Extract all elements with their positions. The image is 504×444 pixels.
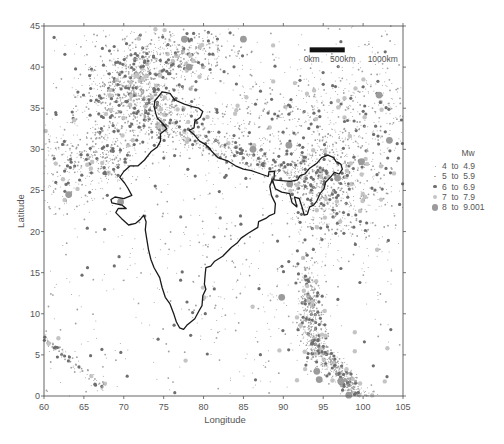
earthquake-point	[133, 91, 135, 93]
earthquake-point	[112, 83, 113, 84]
earthquake-point	[312, 219, 314, 221]
earthquake-point	[332, 190, 334, 192]
earthquake-point	[113, 88, 114, 89]
earthquake-point	[312, 265, 313, 266]
earthquake-point	[260, 62, 261, 63]
earthquake-point	[174, 122, 175, 123]
earthquake-point	[77, 125, 78, 126]
earthquake-point	[169, 63, 170, 64]
earthquake-point	[259, 138, 260, 139]
earthquake-point	[171, 54, 172, 55]
earthquake-point	[152, 111, 153, 112]
earthquake-point	[231, 159, 232, 160]
earthquake-point	[379, 238, 380, 239]
earthquake-point	[300, 319, 302, 321]
earthquake-point	[372, 138, 373, 139]
earthquake-point	[148, 96, 149, 97]
earthquake-point	[298, 118, 300, 120]
x-tick-label: 90	[278, 402, 288, 412]
earthquake-point	[103, 125, 105, 127]
earthquake-point	[106, 46, 107, 47]
earthquake-point	[315, 252, 316, 253]
earthquake-point	[101, 166, 103, 168]
earthquake-point	[276, 118, 278, 120]
earthquake-point	[143, 249, 144, 250]
earthquake-point	[228, 168, 230, 170]
earthquake-point	[385, 375, 388, 378]
earthquake-point	[395, 117, 396, 118]
earthquake-point	[86, 136, 87, 137]
earthquake-point	[259, 116, 260, 117]
earthquake-point	[326, 209, 327, 210]
earthquake-point	[142, 93, 144, 95]
earthquake-point	[89, 166, 93, 170]
earthquake-point	[105, 135, 106, 136]
earthquake-point	[365, 236, 367, 238]
earthquake-point	[125, 117, 127, 119]
earthquake-point	[358, 381, 362, 385]
earthquake-point	[255, 337, 256, 338]
earthquake-point	[397, 91, 398, 92]
earthquake-point	[262, 155, 264, 157]
earthquake-point	[299, 241, 300, 242]
earthquake-point	[123, 93, 125, 95]
earthquake-point	[95, 46, 97, 48]
earthquake-point	[154, 93, 156, 95]
earthquake-point	[303, 296, 304, 297]
earthquake-point	[359, 113, 361, 115]
earthquake-point	[133, 58, 135, 60]
earthquake-point	[88, 119, 89, 120]
earthquake-point	[226, 143, 228, 145]
earthquake-point	[330, 135, 332, 137]
earthquake-point	[325, 195, 327, 197]
earthquake-point	[170, 37, 171, 38]
earthquake-point	[388, 324, 389, 325]
earthquake-point	[130, 53, 131, 54]
earthquake-point	[322, 337, 324, 339]
earthquake-point	[316, 125, 319, 128]
earthquake-point	[201, 267, 202, 268]
earthquake-point	[122, 67, 123, 68]
earthquake-point	[363, 195, 367, 199]
earthquake-point	[322, 178, 324, 180]
earthquake-point	[257, 341, 259, 343]
earthquake-point	[231, 49, 233, 51]
earthquake-point	[213, 138, 214, 139]
earthquake-point	[334, 232, 337, 235]
earthquake-point	[303, 338, 304, 339]
earthquake-point	[89, 354, 92, 357]
earthquake-point	[399, 121, 400, 122]
earthquake-point	[98, 105, 99, 106]
earthquake-point	[115, 65, 116, 66]
earthquake-point	[148, 117, 150, 119]
earthquake-point	[140, 272, 142, 274]
earthquake-point	[286, 194, 287, 195]
earthquake-point	[232, 134, 235, 137]
earthquake-point	[394, 150, 395, 151]
earthquake-point	[245, 358, 246, 359]
earthquake-point	[77, 236, 78, 237]
earthquake-point	[119, 133, 121, 135]
earthquake-point	[242, 156, 243, 157]
earthquake-point	[304, 275, 307, 278]
x-tick-label: 95	[318, 402, 328, 412]
earthquake-point	[302, 273, 303, 274]
earthquake-point	[148, 108, 151, 111]
earthquake-point	[246, 108, 248, 110]
earthquake-point	[134, 69, 135, 70]
earthquake-point	[375, 139, 376, 140]
earthquake-point	[198, 241, 200, 243]
earthquake-point	[330, 243, 331, 244]
earthquake-point	[323, 149, 327, 153]
earthquake-point	[84, 219, 86, 221]
earthquake-point	[61, 154, 63, 156]
earthquake-point	[114, 92, 115, 93]
earthquake-point	[333, 146, 334, 147]
seismicity-map: 6065707580859095100105051015202530354045…	[0, 0, 504, 444]
earthquake-point	[115, 359, 117, 361]
earthquake-point	[306, 332, 307, 333]
earthquake-point	[262, 162, 265, 165]
earthquake-point	[76, 309, 78, 311]
earthquake-point	[229, 31, 232, 34]
earthquake-point	[267, 102, 269, 104]
